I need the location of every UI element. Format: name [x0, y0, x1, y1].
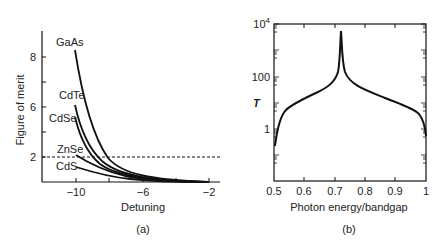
b-x-axis-title: Photon energy/bandgap — [290, 201, 407, 213]
series-label-gaas: GaAs — [56, 36, 84, 48]
b-xticks — [304, 24, 395, 181]
b-xtick-label: 0.9 — [387, 185, 402, 197]
b-xtick-label: 1 — [423, 185, 429, 197]
a-x-axis-title: Detuning — [121, 201, 165, 213]
a-caption: (a) — [136, 223, 149, 235]
series-label-cds: CdS — [56, 160, 77, 172]
figure: 8 6 2 −10 −6 −2 Figure of merit Detuning… — [0, 0, 445, 244]
a-xtick-label: −6 — [137, 186, 150, 198]
a-xtick-label: −2 — [203, 186, 216, 198]
a-ytick-label: 6 — [30, 101, 36, 113]
series-label-znse: ZnSe — [57, 143, 83, 155]
a-ytick-label: 2 — [30, 151, 36, 163]
a-xtick-label: −10 — [67, 186, 86, 198]
b-caption: (b) — [342, 223, 355, 235]
b-ytick-label: 1 — [264, 123, 270, 135]
curve-gaas — [75, 50, 209, 182]
series-label-cdse: CdSe — [49, 112, 77, 124]
b-y-axis-title: T — [253, 97, 261, 109]
b-xtick-label: 0.8 — [357, 185, 372, 197]
curve-cdte — [75, 105, 205, 182]
b-xtick-label: 0.7 — [327, 185, 342, 197]
b-xtick-label: 0.5 — [266, 185, 281, 197]
a-ytick-label: 8 — [30, 51, 36, 63]
series-label-cdte: CdTe — [59, 89, 85, 101]
b-ytick-label: 100 — [252, 71, 270, 83]
b-xtick-label: 0.6 — [296, 185, 311, 197]
a-y-axis-title: Figure of merit — [14, 75, 26, 146]
panel-b: 104 100 1 0.5 0.6 0.7 0.8 0.9 1 T Photon… — [252, 16, 429, 235]
b-yticks — [274, 24, 426, 163]
panel-a: 8 6 2 −10 −6 −2 Figure of merit Detuning… — [14, 31, 220, 235]
curve-t — [275, 31, 426, 146]
b-ytick-label-top: 104 — [253, 16, 270, 30]
